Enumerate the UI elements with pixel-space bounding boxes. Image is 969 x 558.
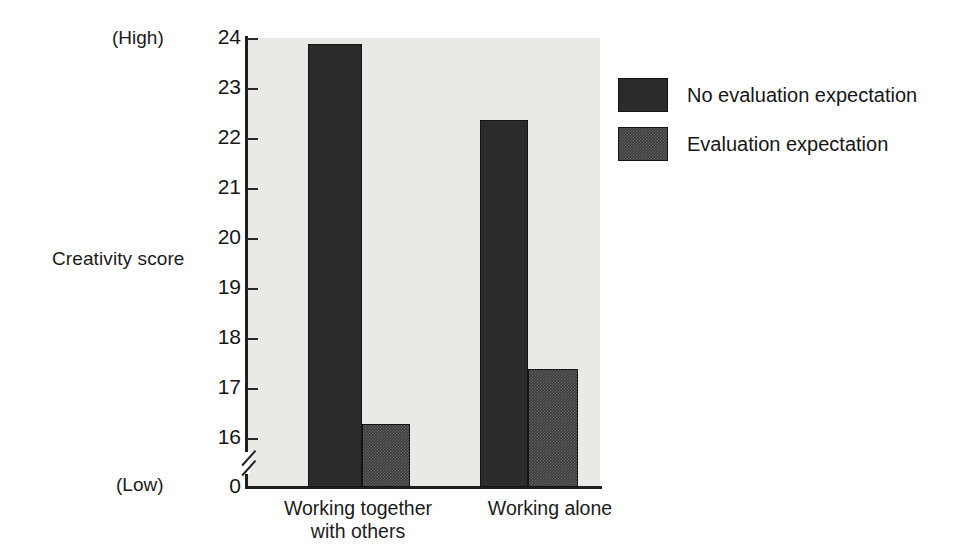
y-axis-low-label: (Low) [116, 474, 164, 496]
x-axis-label-group1-line1: Working together [258, 497, 458, 520]
y-tick-mark-19 [247, 288, 258, 290]
x-axis-label-group2: Working alone [455, 497, 645, 520]
y-tick-label-23: 23 [197, 75, 241, 99]
y-tick-label-24: 24 [197, 25, 241, 49]
y-tick-label-18: 18 [197, 325, 241, 349]
y-tick-mark-23 [247, 88, 258, 90]
legend-swatch-evaluation-expectation [618, 127, 668, 161]
y-tick-mark-16 [247, 438, 258, 440]
x-axis-label-group1: Working together with others [258, 497, 458, 543]
legend-label-no-evaluation-expectation: No evaluation expectation [687, 84, 917, 107]
y-tick-label-22: 22 [197, 125, 241, 149]
y-tick-label-17: 17 [197, 375, 241, 399]
y-tick-mark-24 [247, 38, 258, 40]
legend-label-evaluation-expectation: Evaluation expectation [687, 133, 888, 156]
x-axis-label-group1-line2: with others [258, 520, 458, 543]
y-axis-title: Creativity score [52, 248, 212, 270]
y-tick-label-0: 0 [197, 474, 241, 498]
y-axis-break-icon [239, 448, 259, 478]
legend-swatch-no-evaluation-expectation [618, 78, 668, 112]
y-tick-mark-20 [247, 238, 258, 240]
y-tick-label-19: 19 [197, 275, 241, 299]
bar-group2-no-evaluation-expectation [480, 120, 528, 487]
y-tick-mark-17 [247, 388, 258, 390]
y-tick-mark-21 [247, 188, 258, 190]
legend-item-no-evaluation-expectation: No evaluation expectation [618, 78, 958, 112]
bar-group2-evaluation-expectation [528, 369, 578, 487]
y-axis-line [245, 36, 248, 489]
legend-item-evaluation-expectation: Evaluation expectation [618, 127, 958, 161]
y-tick-mark-22 [247, 138, 258, 140]
bar-group1-no-evaluation-expectation [308, 44, 362, 487]
y-tick-mark-18 [247, 338, 258, 340]
creativity-score-bar-chart: Creativity score (High) (Low) 24 23 22 2… [0, 0, 969, 558]
y-tick-label-16: 16 [197, 425, 241, 449]
y-tick-label-20: 20 [197, 225, 241, 249]
legend: No evaluation expectation Evaluation exp… [618, 78, 958, 176]
bar-group1-evaluation-expectation [362, 424, 410, 487]
y-tick-label-21: 21 [197, 175, 241, 199]
y-axis-high-label: (High) [112, 27, 164, 49]
x-axis-label-group2-line1: Working alone [455, 497, 645, 520]
